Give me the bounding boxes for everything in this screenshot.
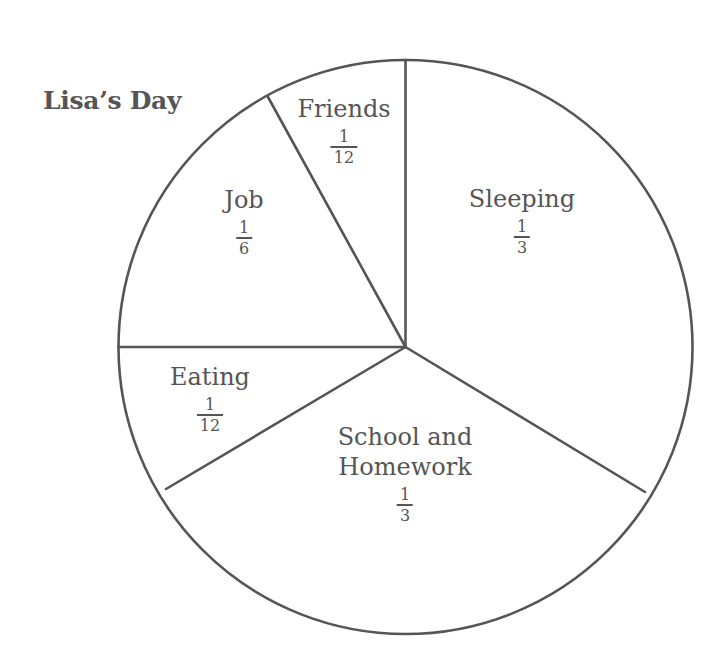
fraction-value: 1 6 — [236, 219, 252, 257]
slice-name-line2: Homework — [338, 452, 473, 482]
slice-name: Eating — [170, 362, 250, 392]
slice-label-eating: Eating 1 12 — [170, 362, 250, 434]
fraction-value: 1 3 — [514, 218, 530, 256]
slice-name: Friends — [297, 94, 390, 124]
fraction-value: 1 3 — [397, 486, 413, 524]
slice-label-friends: Friends 1 12 — [297, 94, 390, 166]
slice-name: Job — [224, 185, 263, 215]
slice-name-line1: School and — [338, 422, 473, 452]
fraction-value: 1 12 — [197, 396, 223, 434]
slice-label-school-and-homework: School and Homework 1 3 — [338, 422, 473, 524]
slice-label-sleeping: Sleeping 1 3 — [469, 184, 575, 256]
slice-name: Sleeping — [469, 184, 575, 214]
fraction-value: 1 12 — [331, 128, 357, 166]
slice-label-job: Job 1 6 — [224, 185, 263, 257]
